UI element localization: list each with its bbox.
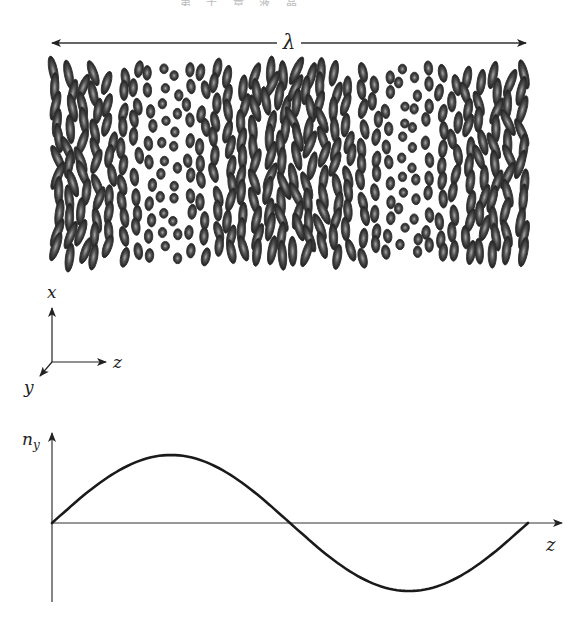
liquid-crystal-molecule [408,122,417,132]
liquid-crystal-molecule [277,240,287,270]
liquid-crystal-molecule [195,63,206,81]
liquid-crystal-molecule [170,181,179,191]
liquid-crystal-molecule [185,133,195,148]
liquid-crystal-molecule [414,233,423,245]
liquid-crystal-molecule [161,84,170,94]
liquid-crystal-molecule [129,168,139,187]
director-field-ellipses [46,55,532,272]
liquid-crystal-molecule [156,191,165,202]
liquid-crystal-molecule [106,163,118,187]
wavelength-label: λ [282,30,296,54]
liquid-crystal-molecule [438,189,447,208]
liquid-crystal-molecule [408,142,417,152]
liquid-crystal-molecule [182,98,191,112]
liquid-crystal-molecule [359,119,371,140]
liquid-crystal-molecule [118,247,131,269]
liquid-crystal-molecule [144,229,152,243]
liquid-crystal-molecule [212,93,221,114]
liquid-crystal-molecule [421,112,430,126]
liquid-crystal-molecule [236,234,251,262]
liquid-crystal-molecule [386,211,395,225]
liquid-crystal-molecule [372,165,381,182]
liquid-crystal-molecule [186,243,196,258]
liquid-crystal-molecule [88,148,104,175]
liquid-crystal-molecule [397,153,405,163]
liquid-crystal-molecule [170,193,178,203]
liquid-crystal-molecule [447,181,459,203]
liquid-crystal-molecule [184,225,193,240]
liquid-crystal-molecule [160,64,169,74]
liquid-crystal-molecule [99,70,114,96]
liquid-crystal-molecule [207,162,220,184]
liquid-crystal-molecule [157,168,166,179]
liquid-crystal-molecule [149,119,158,132]
liquid-crystal-molecule [412,194,421,205]
liquid-crystal-molecule [129,127,138,146]
liquid-crystal-molecule [447,92,456,113]
liquid-crystal-molecule [384,122,393,136]
liquid-crystal-molecule [120,80,128,100]
liquid-crystal-molecule [47,231,64,262]
liquid-crystal-molecule [145,248,154,262]
plot-y-label-main: n [22,429,33,449]
liquid-crystal-molecule [424,171,434,186]
liquid-crystal-molecule [399,188,408,198]
liquid-crystal-molecule [488,240,496,268]
liquid-crystal-molecule [413,246,422,258]
liquid-crystal-molecule [173,229,182,240]
liquid-crystal-molecule [413,90,421,101]
liquid-crystal-molecule [208,72,219,93]
liquid-crystal-molecule [132,188,141,206]
liquid-crystal-molecule [174,90,183,101]
liquid-crystal-molecule [401,223,410,232]
y-axis-arrow [40,362,52,376]
liquid-crystal-molecule [225,239,238,264]
liquid-crystal-molecule [288,236,297,266]
liquid-crystal-molecule [148,178,157,191]
liquid-crystal-molecule [434,212,444,230]
liquid-crystal-molecule [437,104,449,123]
liquid-crystal-molecule [394,203,403,214]
liquid-crystal-molecule [222,98,234,123]
liquid-crystal-molecule [425,76,434,91]
liquid-crystal-molecule [170,71,179,81]
liquid-crystal-molecule [370,183,381,201]
liquid-crystal-molecule [199,227,208,245]
liquid-crystal-molecule [169,216,177,226]
liquid-crystal-molecule [424,61,434,76]
liquid-crystal-molecule [343,238,358,262]
liquid-crystal-molecule [401,119,409,128]
liquid-crystal-molecule [298,237,315,268]
plot-y-label-subscript: y [32,438,40,452]
liquid-crystal-molecule [143,83,152,98]
liquid-crystal-molecule [187,204,197,220]
coordinate-triad: x z y [23,282,123,397]
liquid-crystal-molecule [424,152,434,168]
liquid-crystal-molecule [410,214,418,224]
liquid-crystal-molecule [410,72,419,83]
liquid-crystal-molecule [356,247,369,269]
liquid-crystal-molecule [173,162,182,173]
liquid-crystal-molecule [425,238,433,253]
liquid-crystal-molecule [359,205,371,226]
liquid-crystal-molecule [196,155,205,172]
liquid-crystal-molecule [161,241,169,250]
liquid-crystal-molecule [370,205,379,223]
z-axis-label: z [112,352,123,372]
y-axis-label: y [23,377,34,397]
liquid-crystal-molecule [437,64,449,83]
liquid-crystal-molecule [425,99,434,114]
liquid-crystal-molecule [118,116,127,137]
liquid-crystal-molecule [162,116,171,125]
liquid-crystal-molecule [368,92,376,110]
x-axis-label: x [47,282,57,302]
liquid-crystal-molecule [315,231,330,260]
liquid-crystal-molecule [433,83,444,101]
liquid-crystal-molecule [411,174,420,185]
liquid-crystal-molecule [118,226,131,248]
liquid-crystal-molecule [358,228,368,249]
liquid-crystal-molecule [381,244,391,259]
liquid-crystal-molecule [200,247,212,267]
liquid-crystal-molecule [185,62,194,77]
liquid-crystal-molecule [460,113,476,138]
